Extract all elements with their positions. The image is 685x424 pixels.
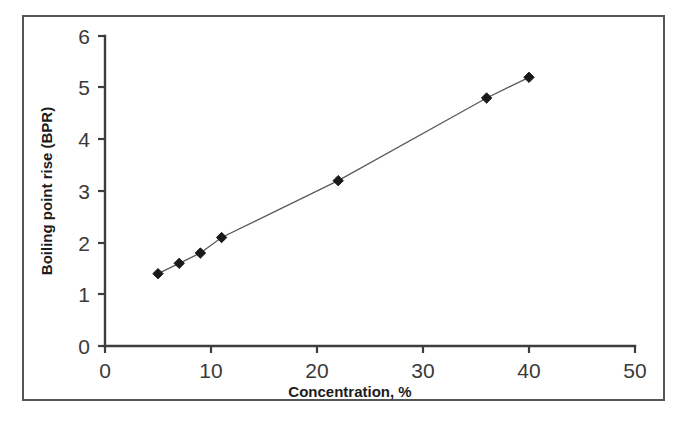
series-line — [158, 77, 529, 273]
x-axis-title: Concentration, % — [288, 383, 411, 400]
y-tick-label: 4 — [78, 128, 90, 151]
data-point-marker — [174, 258, 184, 268]
data-point-marker — [153, 268, 163, 278]
data-point-marker — [216, 232, 226, 242]
x-tick-label: 40 — [517, 359, 540, 382]
x-tick-label: 30 — [411, 359, 434, 382]
y-tick-label: 5 — [78, 76, 90, 99]
data-point-marker — [524, 72, 534, 82]
data-point-marker — [481, 93, 491, 103]
x-tick-labels: 0 10 20 30 40 50 — [99, 359, 647, 382]
y-tick-labels: 6 5 4 3 2 1 0 — [78, 25, 90, 358]
y-tick-label: 6 — [78, 25, 90, 48]
data-series — [153, 72, 534, 279]
x-tick-label: 0 — [99, 359, 111, 382]
y-axis-title: Boiling point rise (BPR) — [38, 107, 55, 275]
x-tick-label: 50 — [623, 359, 646, 382]
y-tick-label: 3 — [78, 180, 90, 203]
chart-figure: 6 5 4 3 2 1 0 0 10 20 30 40 50 Concentra… — [0, 0, 685, 424]
y-tick-label: 1 — [78, 283, 90, 306]
data-point-marker — [195, 248, 205, 258]
data-point-marker — [333, 175, 343, 185]
x-tick-label: 10 — [199, 359, 222, 382]
x-tick-label: 20 — [305, 359, 328, 382]
y-tick-label: 2 — [78, 232, 90, 255]
chart-plot-area: 6 5 4 3 2 1 0 0 10 20 30 40 50 Concentra… — [0, 0, 685, 424]
y-tick-label: 0 — [78, 335, 90, 358]
